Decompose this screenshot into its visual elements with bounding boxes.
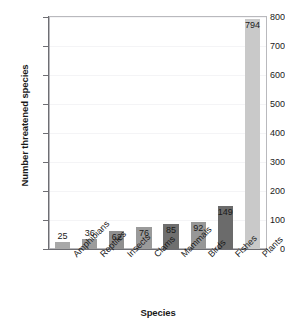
x-axis-tick-label: Reptiles (98, 252, 105, 259)
bar-group: 149 (218, 17, 233, 249)
x-axis-tick-label: Amphibians (71, 252, 78, 259)
bar-group: 794 (245, 17, 260, 249)
x-axis-tick-label: Clams (152, 252, 159, 259)
bars-container: 253662768592149794 (49, 17, 266, 249)
y-axis-title: Number threatened species (19, 46, 30, 206)
bar-group: 25 (55, 17, 70, 249)
bar-group: 62 (109, 17, 124, 249)
bar-group: 92 (191, 17, 206, 249)
bar-group: 36 (82, 17, 97, 249)
x-axis-tick-label: Birds (206, 252, 213, 259)
bar[interactable] (245, 19, 260, 249)
x-axis-tick-labels: AmphibiansReptilesInsectsClamsMammalsBir… (49, 252, 266, 302)
bar-chart: Number threatened species 01002003004005… (0, 0, 285, 330)
bar-group: 85 (163, 17, 178, 249)
bar-value-label: 794 (245, 21, 260, 30)
x-axis-tick-label: Plants (260, 252, 267, 259)
bar-value-label: 25 (58, 232, 68, 241)
x-axis-tick-label: Mammals (179, 252, 186, 259)
bar[interactable] (55, 242, 70, 249)
bar-group: 76 (136, 17, 151, 249)
x-axis-tick-label: Insects (125, 252, 132, 259)
x-axis-title: Species (49, 307, 267, 318)
x-axis-tick-label: Fishes (233, 252, 240, 259)
bar-value-label: 149 (218, 208, 233, 217)
